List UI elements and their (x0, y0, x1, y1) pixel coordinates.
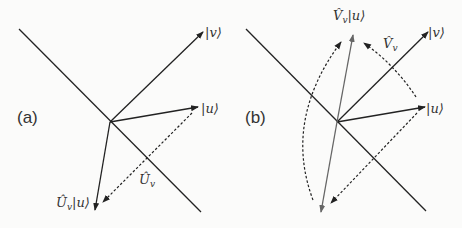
label-v-a: |v⟩ (205, 25, 222, 40)
label-operator-a: Ûv (139, 171, 155, 189)
panel-b: (b) |v⟩ |u⟩ V̂v V̂v|u⟩ (245, 8, 445, 212)
mirror-line-b (246, 29, 426, 211)
panel-a: (a) |v⟩ |u⟩ Ûv Ûv|u⟩ (17, 25, 222, 212)
mirror-line-a (19, 29, 201, 212)
panel-label-b: (b) (245, 108, 266, 127)
label-v-b: |v⟩ (428, 25, 445, 40)
label-result-b: V̂v|u⟩ (333, 8, 365, 25)
panel-label-a: (a) (17, 108, 38, 127)
label-u-b: |u⟩ (426, 101, 444, 116)
label-u-a: |u⟩ (201, 101, 219, 116)
label-operator-b: V̂v (383, 36, 397, 53)
rotation-arc-left-b (303, 42, 341, 200)
diagram-canvas: (a) |v⟩ |u⟩ Ûv Ûv|u⟩ (b) |v⟩ |u⟩ V̂v V̂v… (0, 0, 462, 228)
label-result-a: Ûv|u⟩ (56, 194, 90, 212)
